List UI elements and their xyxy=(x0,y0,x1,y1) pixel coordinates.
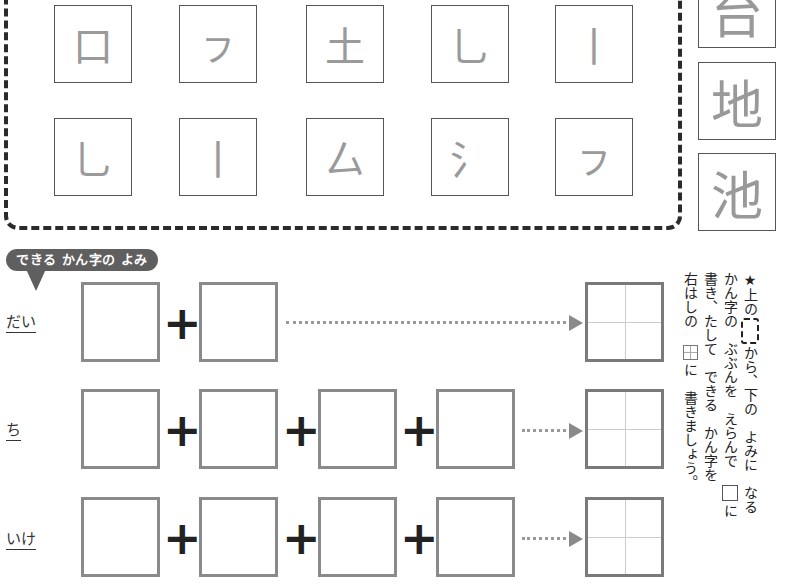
part-card[interactable]: 口 xyxy=(54,5,132,83)
kanji-glyph: 池 xyxy=(711,155,763,230)
answer-box[interactable] xyxy=(81,282,160,362)
dotted-leader xyxy=(522,537,566,540)
plus-sign: + xyxy=(163,515,193,561)
kanji-sample: 池 xyxy=(698,153,776,231)
answer-box[interactable] xyxy=(318,389,397,469)
instruction-line-2: かん字の ぶぶんを えらんで に xyxy=(720,272,740,572)
instruction-text: に xyxy=(722,504,738,518)
answer-box[interactable] xyxy=(199,282,278,362)
instruction-line-4: 右はしの に 書きましょう。 xyxy=(680,272,700,572)
result-box[interactable] xyxy=(585,282,664,362)
part-glyph: 氵 xyxy=(450,128,490,186)
section-banner: できる かん字の よみ xyxy=(6,249,158,271)
part-card[interactable]: 丨 xyxy=(179,118,257,196)
plus-sign: + xyxy=(163,407,193,453)
part-glyph: 丨 xyxy=(198,128,238,186)
instruction-text: 右はしの xyxy=(682,272,698,328)
part-glyph: 乚 xyxy=(450,15,490,73)
part-card[interactable]: 乚 xyxy=(431,5,509,83)
plus-sign: + xyxy=(282,407,312,453)
answer-box[interactable] xyxy=(436,389,515,469)
reading-label: ち xyxy=(6,421,21,441)
kanji-glyph: 台 xyxy=(711,0,763,48)
answer-box[interactable] xyxy=(318,497,397,577)
part-card[interactable]: 氵 xyxy=(431,118,509,196)
part-card[interactable]: 丨 xyxy=(555,5,633,83)
dotted-leader xyxy=(522,429,566,432)
part-glyph: 乚 xyxy=(73,128,113,186)
part-glyph: ㇷ xyxy=(574,128,614,186)
instruction-text: に 書きましょう。 xyxy=(682,363,698,489)
answer-box[interactable] xyxy=(436,497,515,577)
kanji-sample: 地 xyxy=(698,62,776,140)
arrow-right-icon xyxy=(569,531,583,547)
kanji-glyph: 地 xyxy=(711,64,763,139)
instruction-line-1: ★上のから、下の よみに なる xyxy=(740,272,760,572)
part-glyph: 土 xyxy=(325,15,365,73)
kanji-sample: 台 xyxy=(698,0,776,48)
arrow-right-icon xyxy=(569,315,583,331)
plus-sign: + xyxy=(282,515,312,561)
part-card[interactable]: 厶 xyxy=(306,118,384,196)
instruction-text: 上の xyxy=(742,288,758,316)
answer-box[interactable] xyxy=(199,389,278,469)
instruction-text: かん字の ぶぶんを えらんで xyxy=(722,272,738,468)
part-card[interactable]: 乚 xyxy=(54,118,132,196)
part-glyph: ㇷ xyxy=(198,15,238,73)
answer-box[interactable] xyxy=(81,389,160,469)
plus-sign: + xyxy=(163,300,193,346)
part-card[interactable]: ㇷ xyxy=(179,5,257,83)
answer-box[interactable] xyxy=(81,497,160,577)
plus-sign: + xyxy=(400,515,430,561)
banner-tail xyxy=(26,269,46,291)
reading-label: だい xyxy=(6,313,36,333)
part-glyph: 厶 xyxy=(325,128,365,186)
part-card[interactable]: 土 xyxy=(306,5,384,83)
grid-box-icon xyxy=(683,345,698,360)
part-glyph: 口 xyxy=(73,15,113,73)
part-card[interactable]: ㇷ xyxy=(555,118,633,196)
reading-label: いけ xyxy=(6,530,36,550)
plus-sign: + xyxy=(400,407,430,453)
part-glyph: 丨 xyxy=(574,15,614,73)
square-box-icon xyxy=(722,485,738,501)
dotted-leader xyxy=(286,321,566,324)
instructions: ★上のから、下の よみに なる かん字の ぶぶんを えらんで に 書き、たして … xyxy=(680,272,760,572)
result-box[interactable] xyxy=(585,497,664,577)
answer-box[interactable] xyxy=(199,497,278,577)
dashed-box-icon xyxy=(741,318,759,344)
instruction-line-3: 書き、たして できる かん字を xyxy=(700,272,720,572)
arrow-right-icon xyxy=(569,423,583,439)
star-icon: ★ xyxy=(742,272,758,288)
instruction-text: から、下の よみに なる xyxy=(742,346,758,514)
result-box[interactable] xyxy=(585,389,664,469)
